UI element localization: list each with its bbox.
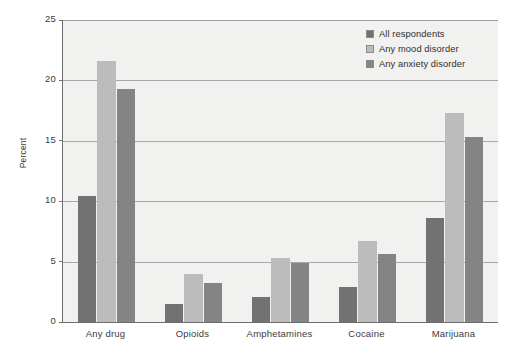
legend-item-2: Any anxiety disorder	[366, 57, 506, 71]
y-tick-label: 5	[51, 255, 56, 266]
bar	[252, 297, 271, 322]
bar-group-amphetamines	[237, 20, 324, 322]
x-axis-labels: Any drugOpioidsAmphetaminesCocaineMariju…	[62, 328, 497, 348]
legend-swatch-icon	[366, 30, 374, 38]
bar	[271, 258, 290, 322]
bar	[78, 196, 97, 322]
bar	[204, 283, 223, 322]
bar	[165, 304, 184, 322]
legend-item-label: All respondents	[379, 29, 445, 39]
bar	[378, 254, 397, 322]
legend-swatch-icon	[366, 45, 374, 53]
bar	[291, 263, 310, 322]
legend-swatch-icon	[366, 60, 374, 68]
y-tick-label: 0	[51, 315, 56, 326]
y-tick-label: 15	[45, 134, 56, 145]
legend-item-label: Any anxiety disorder	[379, 59, 465, 69]
bar-group-opioids	[150, 20, 237, 322]
bar-chart-figure: Percent 2520151050 Any drugOpioidsAmphet…	[0, 0, 512, 361]
bar	[339, 287, 358, 322]
x-tick-label-marijuana: Marijuana	[432, 328, 476, 339]
bar	[445, 113, 464, 322]
x-tick-label-any-drug: Any drug	[86, 328, 126, 339]
bar	[358, 241, 377, 322]
bar	[97, 61, 116, 322]
x-tick-label-cocaine: Cocaine	[348, 328, 384, 339]
chart-legend: All respondentsAny mood disorderAny anxi…	[366, 27, 506, 72]
legend-item-label: Any mood disorder	[379, 44, 459, 54]
y-tick-label: 10	[45, 194, 56, 205]
bar	[465, 137, 484, 322]
legend-item-0: All respondents	[366, 27, 506, 41]
x-tick-label-amphetamines: Amphetamines	[247, 328, 313, 339]
x-tick-label-opioids: Opioids	[176, 328, 210, 339]
y-tick-label: 25	[45, 13, 56, 24]
y-tick-label: 20	[45, 73, 56, 84]
bar	[184, 274, 203, 322]
bar	[426, 218, 445, 322]
y-axis-ticks: 2520151050	[0, 0, 68, 361]
bar	[117, 89, 136, 322]
legend-item-1: Any mood disorder	[366, 42, 506, 56]
bar-group-any-drug	[63, 20, 150, 322]
